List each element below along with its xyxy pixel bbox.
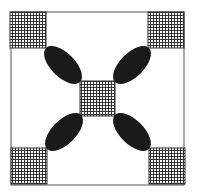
grid-squares: [10, 12, 185, 184]
grid-square-bottom-right: [149, 148, 185, 184]
grid-square-top-left: [10, 12, 46, 48]
grid-square-top-right: [148, 12, 184, 48]
grid-square-bottom-left: [11, 148, 47, 184]
grid-square-center: [80, 81, 115, 116]
pattern-diagram: [0, 0, 197, 196]
